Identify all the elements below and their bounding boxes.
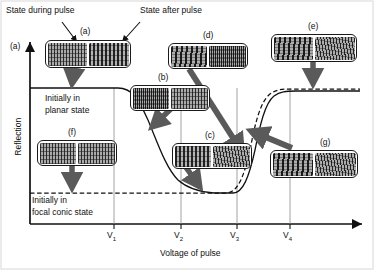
caption-focal-line1: Initially in [32, 196, 67, 206]
micrograph-d-during [171, 46, 208, 67]
micrograph-d-after [209, 46, 246, 67]
micrograph-a-after [89, 43, 129, 66]
arrow-c-to-curve [185, 166, 200, 187]
panel-label-d: (d) [203, 31, 213, 41]
xtick-label-v2: V2 [174, 231, 183, 242]
panel-label-g: (g) [320, 138, 330, 148]
micrograph-c-after [213, 146, 250, 167]
leader-during-pulse [62, 22, 77, 42]
xtick-label-v4: V4 [283, 231, 292, 242]
xtick-label-v3: V3 [230, 231, 239, 242]
micrograph-c-during [175, 146, 212, 167]
micrograph-g-during [273, 153, 314, 176]
micrograph-f-after [78, 143, 115, 164]
subfigure-label: (a) [10, 42, 20, 52]
panel-label-e: (e) [308, 22, 318, 32]
x-axis-label: Voltage of pulse [160, 249, 221, 259]
arrow-a-to-curve [72, 68, 74, 84]
micrograph-g-after [315, 153, 356, 176]
panel-label-f: (f) [68, 128, 76, 138]
panel-a[interactable] [45, 40, 131, 68]
panel-b[interactable] [130, 85, 210, 111]
xtick-label-v1: V1 [107, 231, 116, 242]
micrograph-b-during [133, 88, 170, 109]
panel-label-b: (b) [158, 73, 168, 83]
caption-planar-line2: planar state [45, 106, 89, 116]
panel-f[interactable] [37, 140, 117, 166]
figure-container: State during pulse State after pulse (a)… [0, 0, 374, 270]
caption-planar-line1: Initially in [45, 94, 80, 104]
annotation-state-after-pulse: State after pulse [140, 6, 202, 16]
panel-label-a: (a) [80, 27, 90, 37]
micrograph-a-during [48, 43, 88, 66]
micrograph-f-during [40, 143, 77, 164]
caption-focal-line2: focal conic state [32, 208, 93, 218]
micrograph-e-after [315, 37, 355, 60]
leader-after-pulse [122, 22, 140, 42]
micrograph-b-after [171, 88, 208, 109]
panel-c[interactable] [172, 143, 252, 169]
panel-e[interactable] [271, 34, 357, 62]
panel-g[interactable] [270, 150, 358, 178]
panel-label-c: (c) [205, 131, 215, 141]
micrograph-e-during [274, 37, 314, 60]
annotation-state-during-pulse: State during pulse [6, 6, 75, 16]
panel-d[interactable] [168, 43, 248, 69]
y-axis-label: Reflection [14, 102, 24, 172]
